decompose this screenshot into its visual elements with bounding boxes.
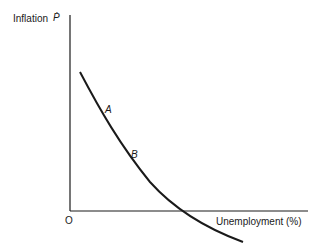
- y-axis-symbol: Ṗ: [53, 13, 60, 23]
- y-axis-label: Inflation: [13, 14, 48, 24]
- x-axis-label: Unemployment (%): [216, 217, 302, 227]
- point-a-label: A: [105, 105, 112, 115]
- origin-label: O: [65, 216, 73, 226]
- phillips-curve-chart: [0, 0, 321, 252]
- point-b-label: B: [131, 150, 138, 160]
